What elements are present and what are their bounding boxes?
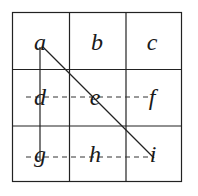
- label-b: b: [91, 29, 103, 55]
- label-c: c: [147, 29, 158, 55]
- label-f: f: [149, 84, 159, 110]
- label-h: h: [89, 141, 101, 167]
- label-g: g: [34, 141, 46, 167]
- label-d: d: [34, 84, 47, 110]
- label-i: i: [150, 141, 157, 167]
- grid-diagram: a b c d e f g h i: [0, 0, 198, 196]
- label-e: e: [90, 84, 101, 110]
- label-a: a: [34, 29, 46, 55]
